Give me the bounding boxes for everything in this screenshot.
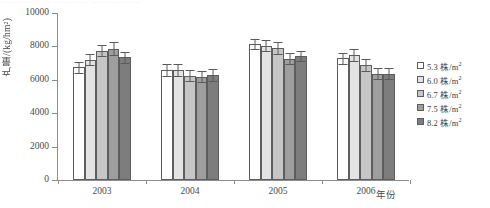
bars-2006 — [337, 13, 395, 180]
legend-label-superscript: 2 — [458, 103, 461, 109]
plot-area: 0200040006000800010000 2003200420052006 — [57, 13, 409, 180]
legend-item-1[interactable]: 5.3 株/m2 — [417, 59, 489, 72]
bar[interactable] — [85, 60, 97, 180]
error-bar-cap-bottom — [373, 79, 382, 80]
chart-legend: 5.3 株/m26.0 株/m26.7 株/m27.5 株/m28.2 株/m2 — [417, 59, 489, 129]
y-tick-4000: 4000 — [52, 113, 57, 114]
error-bar-cap-top — [185, 70, 194, 71]
legend-label-superscript: 2 — [458, 89, 461, 95]
y-tick-label-4000: 4000 — [30, 107, 49, 118]
legend-label: 5.3 株/m2 — [427, 59, 462, 72]
bar-slot — [349, 13, 361, 180]
x-tick-1 — [146, 180, 147, 184]
error-bar-cap-top — [361, 59, 370, 60]
error-bar-cap-bottom — [121, 63, 130, 64]
error-bar-cap-top — [385, 68, 394, 69]
legend-item-4[interactable]: 7.5 株/m2 — [417, 101, 489, 114]
bar-slot — [249, 13, 261, 180]
error-bar-stem — [377, 68, 378, 79]
bar-slot — [196, 13, 208, 180]
error-bar-cap-bottom — [385, 79, 394, 80]
error-bar-cap-bottom — [273, 54, 282, 55]
bar[interactable] — [184, 76, 196, 180]
legend-label-superscript: 2 — [458, 117, 461, 123]
bars-2003 — [73, 13, 131, 180]
error-bar-cap-top — [209, 69, 218, 70]
bar-slot — [284, 13, 296, 180]
error-bar-cap-bottom — [97, 56, 106, 57]
error-bar-cap-bottom — [361, 71, 370, 72]
error-bar-cap-top — [174, 64, 183, 65]
error-bar-cap-top — [297, 51, 306, 52]
bar[interactable] — [337, 58, 349, 180]
legend-swatch-icon — [417, 90, 424, 97]
x-tick-3 — [322, 180, 323, 184]
error-bar-stem — [166, 64, 167, 76]
error-bar-cap-top — [74, 62, 83, 63]
bar[interactable] — [261, 46, 273, 180]
error-bar-cap-top — [373, 68, 382, 69]
error-bar-cap-bottom — [109, 55, 118, 56]
bar[interactable] — [196, 77, 208, 180]
error-bar-cap-top — [162, 64, 171, 65]
y-axis-title: 产量/(kg/hm²) — [2, 18, 16, 76]
bars-2005 — [249, 13, 307, 180]
bar[interactable] — [161, 70, 173, 180]
error-bar-cap-bottom — [338, 64, 347, 65]
x-tick-0 — [58, 180, 59, 184]
legend-item-2[interactable]: 6.0 株/m2 — [417, 73, 489, 86]
error-bar-cap-bottom — [209, 81, 218, 82]
bar-group-2003: 2003 — [73, 13, 131, 180]
error-bar-stem — [266, 40, 267, 51]
legend-label: 6.0 株/m2 — [427, 73, 462, 86]
bar[interactable] — [108, 49, 120, 180]
error-bar-stem — [113, 42, 114, 55]
bar-groups: 2003200420052006 — [58, 13, 409, 180]
bar[interactable] — [173, 70, 185, 180]
error-bar-cap-bottom — [74, 73, 83, 74]
bar[interactable] — [360, 65, 372, 180]
bar-group-2004: 2004 — [161, 13, 219, 180]
bar[interactable] — [207, 75, 219, 180]
error-bar-stem — [189, 70, 190, 81]
bar[interactable] — [295, 56, 307, 180]
error-bar-stem — [125, 52, 126, 63]
bar[interactable] — [349, 55, 361, 180]
bar-slot — [360, 13, 372, 180]
error-bar-stem — [289, 53, 290, 64]
legend-swatch-icon — [417, 76, 424, 83]
bar-slot — [96, 13, 108, 180]
error-bar-stem — [342, 53, 343, 64]
bar-slot — [85, 13, 97, 180]
error-bar-cap-bottom — [86, 65, 95, 66]
error-bar-cap-top — [262, 40, 271, 41]
error-bar-cap-top — [86, 54, 95, 55]
bar[interactable] — [383, 74, 395, 180]
error-bar-cap-top — [121, 52, 130, 53]
error-bar-stem — [90, 54, 91, 65]
error-bar-cap-top — [250, 39, 259, 40]
bar[interactable] — [284, 59, 296, 180]
bar-slot — [372, 13, 384, 180]
legend-item-5[interactable]: 8.2 株/m2 — [417, 115, 489, 128]
error-bar-stem — [389, 68, 390, 79]
legend-label: 8.2 株/m2 — [427, 115, 462, 128]
bar[interactable] — [96, 51, 108, 180]
x-axis-line — [57, 180, 409, 181]
bar[interactable] — [249, 44, 261, 180]
error-bar-stem — [365, 59, 366, 71]
y-tick-label-2000: 2000 — [30, 141, 49, 152]
bar[interactable] — [119, 57, 131, 180]
y-tick-0: 0 — [52, 180, 57, 181]
error-bar-cap-top — [273, 42, 282, 43]
bar[interactable] — [372, 74, 384, 180]
y-tick-label-6000: 6000 — [30, 74, 49, 85]
bar[interactable] — [73, 67, 85, 180]
legend-label: 6.7 株/m2 — [427, 87, 462, 100]
yield-bar-chart-figure: ·· ··· ····· ···· ·· ··· ···· ···· ···· … — [0, 0, 490, 208]
y-tick-10000: 10000 — [52, 13, 57, 14]
error-bar-cap-bottom — [197, 82, 206, 83]
bar-slot — [261, 13, 273, 180]
legend-item-3[interactable]: 6.7 株/m2 — [417, 87, 489, 100]
bar[interactable] — [272, 48, 284, 180]
